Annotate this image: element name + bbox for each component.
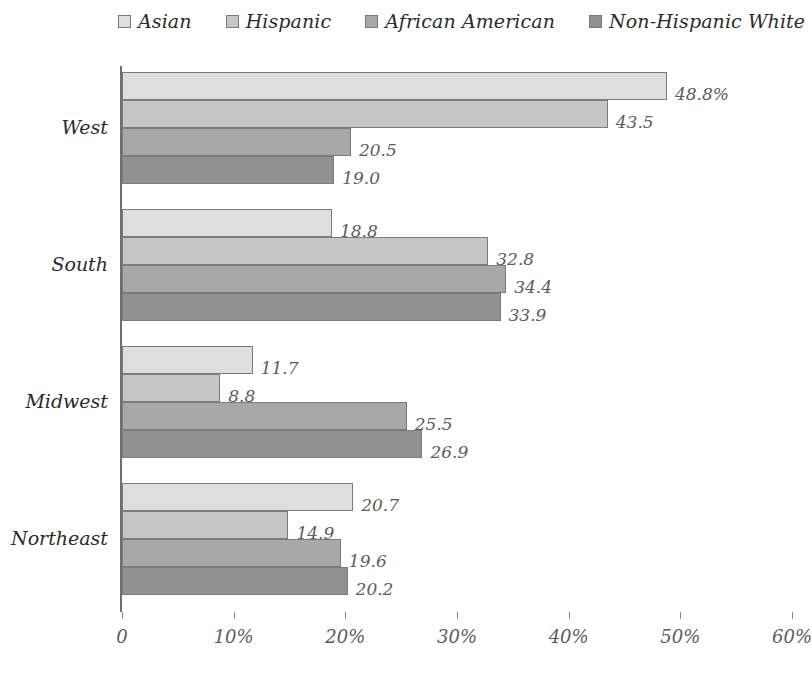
- bar[interactable]: [122, 511, 288, 539]
- category-label-northeast: Northeast: [4, 527, 108, 549]
- legend-swatch-icon: [118, 15, 131, 28]
- chart-legend: Asian Hispanic African American Non-Hisp…: [118, 4, 798, 38]
- bar-row: 48.8%: [122, 72, 792, 100]
- x-axis-tick-label: 20%: [325, 626, 365, 647]
- bar-row: 34.4: [122, 265, 792, 293]
- bar[interactable]: [122, 156, 334, 184]
- bar[interactable]: [122, 209, 332, 237]
- bar[interactable]: [122, 402, 407, 430]
- x-axis-tick-mark: [234, 612, 235, 619]
- legend-label: African American: [385, 10, 555, 32]
- x-axis-tick-label: 30%: [437, 626, 477, 647]
- legend-label: Asian: [138, 10, 192, 32]
- bar[interactable]: [122, 567, 348, 595]
- bar[interactable]: [122, 293, 501, 321]
- y-axis-category-labels: West South Midwest Northeast: [0, 66, 108, 612]
- bar[interactable]: [122, 346, 253, 374]
- bar-row: 8.8: [122, 374, 792, 402]
- bar-value-label: 20.2: [356, 579, 394, 599]
- category-label-west: West: [4, 116, 108, 138]
- x-axis-tick-mark: [792, 612, 793, 619]
- bar-row: 19.6: [122, 539, 792, 567]
- bar-row: 32.8: [122, 237, 792, 265]
- bar-row: 18.8: [122, 209, 792, 237]
- x-axis-tick-mark: [680, 612, 681, 619]
- bar-row: 11.7: [122, 346, 792, 374]
- legend-label: Hispanic: [246, 10, 332, 32]
- legend-swatch-icon: [589, 15, 602, 28]
- x-axis-tick-label: 10%: [214, 626, 254, 647]
- bar-row: 19.0: [122, 156, 792, 184]
- bar[interactable]: [122, 483, 353, 511]
- bar-row: 14.9: [122, 511, 792, 539]
- legend-item-non-hispanic-white[interactable]: Non-Hispanic White: [589, 10, 805, 32]
- x-axis-tick-mark: [345, 612, 346, 619]
- bar-row: 43.5: [122, 100, 792, 128]
- legend-swatch-icon: [365, 15, 378, 28]
- bar-value-label: 33.9: [509, 305, 547, 325]
- x-axis-tick-mark: [457, 612, 458, 619]
- legend-item-african-american[interactable]: African American: [365, 10, 555, 32]
- category-label-south: South: [4, 253, 108, 275]
- bar[interactable]: [122, 374, 220, 402]
- legend-item-asian[interactable]: Asian: [118, 10, 192, 32]
- bar[interactable]: [122, 265, 506, 293]
- x-axis-tick-label: 60%: [772, 626, 812, 647]
- plot-area: 48.8%43.520.519.018.832.834.433.911.78.8…: [120, 66, 792, 612]
- x-axis-tick-label: 0: [116, 626, 127, 647]
- bar[interactable]: [122, 128, 351, 156]
- bar[interactable]: [122, 430, 422, 458]
- x-axis: 010%20%30%40%50%60%: [120, 612, 792, 658]
- bar-row: 20.5: [122, 128, 792, 156]
- bar[interactable]: [122, 237, 488, 265]
- x-axis-tick-label: 40%: [549, 626, 589, 647]
- bar-row: 20.7: [122, 483, 792, 511]
- category-label-midwest: Midwest: [4, 390, 108, 412]
- bar-value-label: 26.9: [430, 442, 468, 462]
- x-axis-tick-mark: [569, 612, 570, 619]
- legend-label: Non-Hispanic White: [609, 10, 805, 32]
- bar-row: 33.9: [122, 293, 792, 321]
- x-axis-tick-label: 50%: [660, 626, 700, 647]
- bar[interactable]: [122, 539, 341, 567]
- bar-row: 20.2: [122, 567, 792, 595]
- x-axis-tick-mark: [122, 612, 123, 619]
- bar-value-label: 19.0: [342, 168, 380, 188]
- bar-row: 26.9: [122, 430, 792, 458]
- bar[interactable]: [122, 100, 608, 128]
- legend-item-hispanic[interactable]: Hispanic: [226, 10, 332, 32]
- bar[interactable]: [122, 72, 667, 100]
- bar-row: 25.5: [122, 402, 792, 430]
- legend-swatch-icon: [226, 15, 239, 28]
